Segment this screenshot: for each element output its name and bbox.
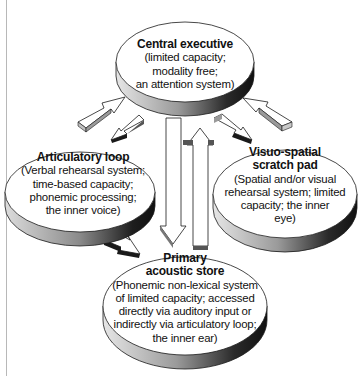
arrow-executive-to-visuospatial [214, 114, 252, 144]
arrow-articulatory-to-executive [78, 97, 125, 132]
arrow-executive-to-articulatory [111, 115, 144, 143]
visuospatial-title: Visuo-spatial scratch pad [212, 146, 358, 173]
articulatory-loop-description: (Verbal rehearsal system; time-based cap… [8, 164, 158, 217]
articulatory-loop-label: Articulatory loop (Verbal rehearsal syst… [8, 151, 158, 217]
central-executive-label: Central executive (limited capacity; mod… [116, 38, 254, 91]
acoustic-store-description: (Phonemic non-lexical system of limited … [104, 279, 266, 345]
arrow-acoustic-store-to-executive [183, 128, 214, 250]
articulatory-loop-title: Articulatory loop [8, 151, 158, 164]
acoustic-store-label: Primary acoustic store (Phonemic non-lex… [104, 252, 266, 345]
arrow-executive-to-acoustic-store [160, 118, 186, 248]
acoustic-store-title: Primary acoustic store [104, 252, 266, 279]
central-executive-description: (limited capacity; modality free; an att… [116, 51, 254, 91]
arrow-visuospatial-to-executive [243, 98, 292, 131]
central-executive-title: Central executive [116, 38, 254, 51]
diagram-canvas: Central executive (limited capacity; mod… [0, 0, 363, 376]
visuospatial-label: Visuo-spatial scratch pad (Spatial and/o… [212, 146, 358, 226]
visuospatial-description: (Spatial and/or visual rehearsal system;… [212, 173, 358, 226]
